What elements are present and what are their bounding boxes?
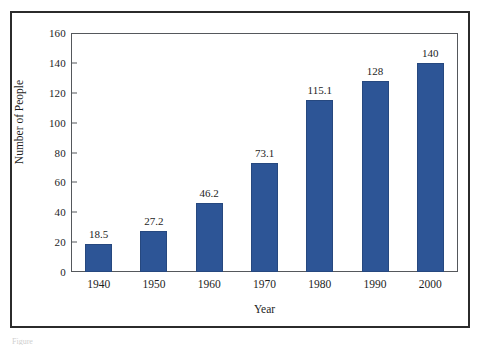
x-tick-label: 1990 [348, 278, 402, 290]
bar[interactable] [251, 163, 278, 272]
bar-value-label: 18.5 [72, 228, 126, 240]
y-tick-label: 100 [49, 117, 66, 129]
y-tick-mark [71, 212, 77, 213]
y-tick-mark [71, 122, 77, 123]
bar-value-label: 27.2 [127, 215, 181, 227]
y-tick-label: 80 [55, 147, 66, 159]
y-tick-label: 20 [55, 236, 66, 248]
bar-value-label: 140 [403, 47, 457, 59]
y-tick-mark [71, 182, 77, 183]
bar-value-label: 73.1 [238, 147, 292, 159]
y-tick-mark [71, 92, 77, 93]
y-tick-label: 120 [49, 87, 66, 99]
y-tick-label: 160 [49, 27, 66, 39]
bar-chart: Number of People 020406080100120140160 1… [0, 0, 482, 347]
y-tick-label: 0 [60, 266, 66, 278]
x-tick-label: 1960 [182, 278, 236, 290]
bar[interactable] [85, 244, 112, 272]
x-tick-label: 1970 [238, 278, 292, 290]
x-axis-title: Year [71, 303, 458, 315]
y-tick-label: 40 [55, 206, 66, 218]
bar[interactable] [362, 81, 389, 272]
y-tick-mark [71, 242, 77, 243]
bar[interactable] [306, 100, 333, 272]
x-tick-label: 2000 [403, 278, 457, 290]
bar-value-label: 46.2 [182, 187, 236, 199]
bar[interactable] [196, 203, 223, 272]
x-tick-label: 1980 [293, 278, 347, 290]
y-tick-label: 60 [55, 176, 66, 188]
x-tick-label: 1950 [127, 278, 181, 290]
bar[interactable] [140, 231, 167, 272]
y-tick-mark [71, 152, 77, 153]
x-tick-label: 1940 [72, 278, 126, 290]
y-axis-title: Number of People [13, 62, 25, 182]
caption-fragment: Figure [12, 337, 132, 345]
y-axis-tick-labels: 020406080100120140160 [36, 33, 66, 272]
plot-area: 18.527.246.273.1115.1128140 [71, 33, 458, 272]
bar[interactable] [417, 63, 444, 272]
y-tick-label: 140 [49, 57, 66, 69]
x-axis-tick-labels: 1940195019601970198019902000 [71, 278, 458, 294]
bar-value-label: 128 [348, 65, 402, 77]
y-tick-mark [71, 62, 77, 63]
bar-value-label: 115.1 [293, 84, 347, 96]
